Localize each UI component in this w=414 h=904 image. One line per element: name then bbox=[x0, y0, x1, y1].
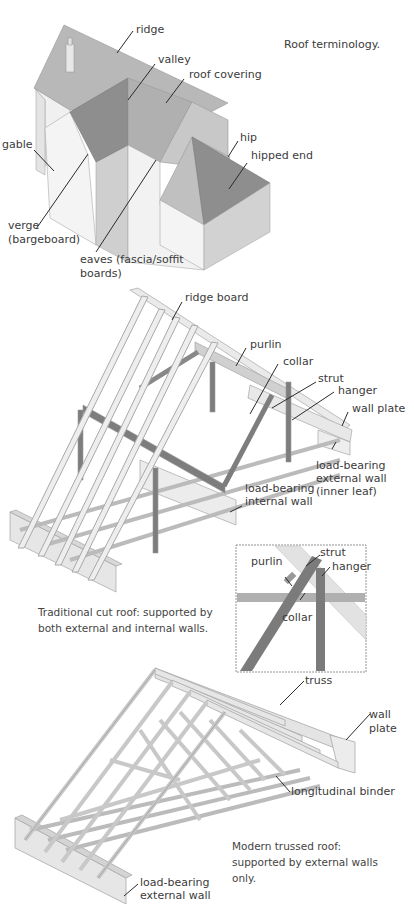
label-ext-wall-2: external wall bbox=[140, 889, 211, 902]
caption-trussed-roof-3: only. bbox=[232, 870, 256, 886]
label-ext-wall-1: load-bearing bbox=[140, 876, 210, 889]
label-wall-plate-2: plate bbox=[369, 722, 397, 735]
label-wall-plate-1: wall bbox=[369, 708, 391, 721]
caption-trussed-roof-1: Modern trussed roof: bbox=[232, 838, 341, 854]
label-longitudinal-binder: longitudinal binder bbox=[291, 785, 395, 798]
caption-trussed-roof-2: supported by external walls bbox=[232, 854, 378, 870]
modern-trussed-roof-illustration bbox=[0, 0, 414, 904]
label-truss: truss bbox=[305, 674, 332, 687]
